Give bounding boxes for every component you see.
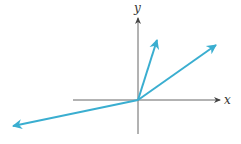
- vector-lower-left: [13, 100, 138, 126]
- vector-shallow: [138, 45, 216, 100]
- vector-diagram: x y: [0, 0, 241, 144]
- y-axis-label: y: [133, 1, 141, 15]
- x-axis-label: x: [224, 93, 231, 107]
- vector-steep: [138, 40, 157, 100]
